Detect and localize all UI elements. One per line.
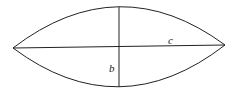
lens-diagram: c b xyxy=(0,0,234,95)
label-b: b xyxy=(109,62,115,74)
label-c: c xyxy=(168,34,173,46)
